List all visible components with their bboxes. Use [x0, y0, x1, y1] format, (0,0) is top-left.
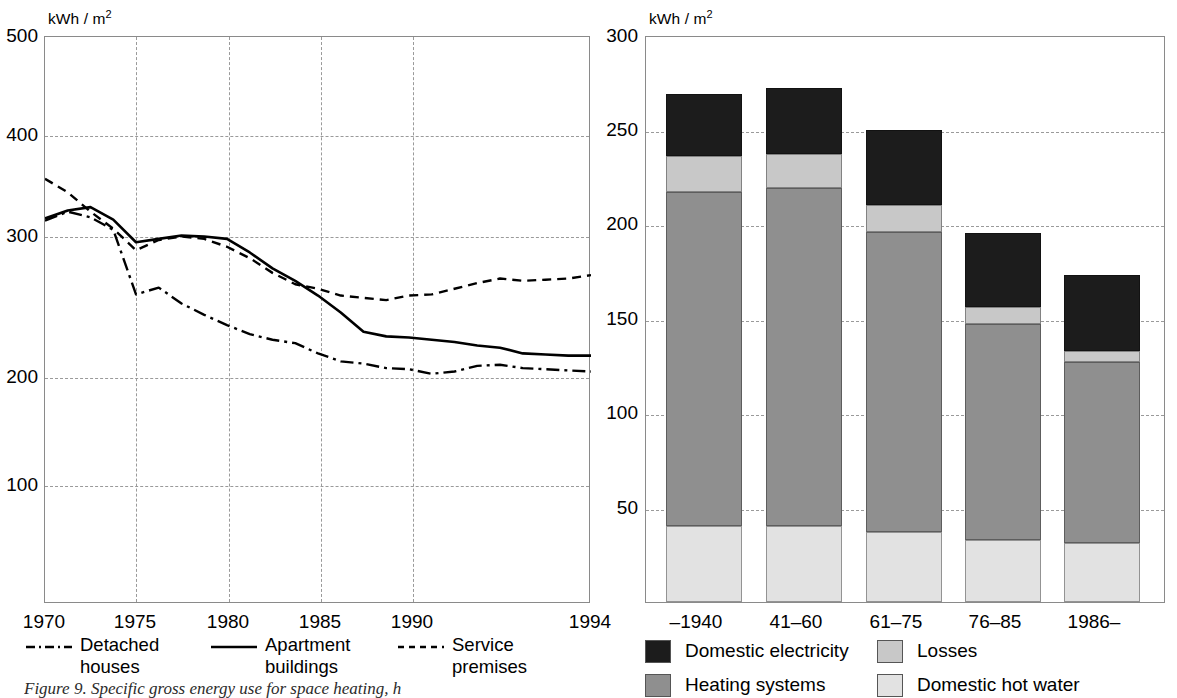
right-legend-label-losses: Losses: [917, 640, 977, 662]
right-legend-label-heating-systems: Heating systems: [685, 674, 825, 696]
right-legend-label-domestic-hot-water: Domestic hot water: [917, 674, 1080, 696]
bar-61_75[interactable]: [866, 35, 942, 602]
bar-segment-domestic-hot-water: [1064, 543, 1140, 602]
bar-segment-heating-systems: [1064, 362, 1140, 543]
bar-segment-domestic-electricity: [766, 88, 842, 154]
bar-segment-losses: [965, 307, 1041, 324]
left-xtick-1975: 1975: [95, 611, 175, 633]
dashed-line-icon: [398, 641, 444, 653]
bar-segment-domestic-hot-water: [766, 526, 842, 602]
left-ytick-400: 400: [0, 124, 38, 146]
bar-segment-losses: [1064, 351, 1140, 362]
left-legend-label-apartment-line2: buildings: [265, 656, 338, 677]
swatch-domestic-hot-water-icon: [877, 674, 903, 697]
bars-layer: [646, 37, 1164, 602]
right-ytick-150: 150: [598, 308, 638, 330]
bar-segment-domestic-electricity: [866, 130, 942, 206]
right-legend-label-domestic-electricity: Domestic electricity: [685, 640, 849, 662]
bar-segment-losses: [866, 205, 942, 231]
bar-segment-domestic-electricity: [965, 233, 1041, 307]
right-ytick-300: 300: [598, 25, 638, 47]
bar-41_60[interactable]: [766, 35, 842, 602]
left-xtick-1980: 1980: [188, 611, 268, 633]
left-legend-label-service-line1: Service: [452, 634, 514, 655]
swatch-losses-icon: [877, 640, 903, 663]
bar-segment-domestic-hot-water: [666, 526, 742, 602]
left-ytick-200: 200: [0, 366, 38, 388]
swatch-domestic-electricity-icon: [645, 640, 671, 663]
left-y-axis-unit: kWh / m2: [48, 8, 112, 28]
solid-line-icon: [211, 641, 257, 653]
right-ytick-100: 100: [598, 402, 638, 424]
right-y-axis-unit: kWh / m2: [649, 8, 713, 28]
line-series-service-premises: [45, 179, 591, 300]
left-plot-area: [44, 36, 590, 603]
bar-segment-heating-systems: [965, 324, 1041, 539]
dash-dot-line-icon: [26, 641, 72, 653]
bar-segment-heating-systems: [866, 232, 942, 533]
left-legend-label-detached-line1: Detached: [80, 634, 159, 655]
left-ytick-100: 100: [0, 474, 38, 496]
left-legend-label-service-line2: premises: [452, 656, 527, 677]
left-legend-label-detached-line2: houses: [80, 656, 140, 677]
bar-segment-domestic-electricity: [1064, 275, 1140, 351]
left-ytick-500: 500: [0, 25, 38, 47]
bar-segment-domestic-electricity: [666, 94, 742, 156]
left-ytick-300: 300: [0, 225, 38, 247]
left-xtick-1985: 1985: [280, 611, 360, 633]
left-series-svg: [45, 37, 591, 604]
right-ytick-50: 50: [598, 497, 638, 519]
line-series-apartment-buildings: [45, 207, 591, 356]
bar-segment-domestic-hot-water: [965, 540, 1041, 602]
bar-76_85[interactable]: [965, 35, 1041, 602]
right-ytick-250: 250: [598, 119, 638, 141]
left-xtick-1970: 1970: [4, 611, 84, 633]
figure-caption: Figure 9. Specific gross energy use for …: [24, 679, 624, 698]
left-xtick-1994: 1994: [550, 611, 630, 633]
swatch-heating-systems-icon: [645, 674, 671, 697]
right-plot-area: [645, 36, 1165, 603]
bar-segment-losses: [666, 156, 742, 192]
left-legend-label-apartment-line1: Apartment: [265, 634, 350, 655]
bar-1986_[interactable]: [1064, 35, 1140, 602]
bar-segment-losses: [766, 154, 842, 188]
bar-segment-domestic-hot-water: [866, 532, 942, 602]
bar-segment-heating-systems: [666, 192, 742, 527]
left-xtick-1990: 1990: [372, 611, 452, 633]
figure-container: kWh / m2 500 400 300 200 100 1970 1975 1…: [0, 0, 1177, 698]
bar-_1940[interactable]: [666, 35, 742, 602]
right-xtick-1986: 1986–: [1034, 611, 1154, 633]
bar-segment-heating-systems: [766, 188, 842, 526]
right-ytick-200: 200: [598, 213, 638, 235]
